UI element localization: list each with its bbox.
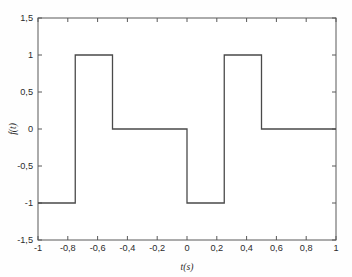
x-tick-label: -0,8 xyxy=(60,243,76,253)
x-tick-label: 0,4 xyxy=(240,243,253,253)
y-axis-tick-labels: -1,5-1-0,500,511,5 xyxy=(17,13,33,245)
x-tick-label: 1 xyxy=(333,243,338,253)
y-tick-label: 1 xyxy=(28,50,33,60)
y-tick-label: -1,5 xyxy=(17,235,33,245)
x-axis-title: t(s) xyxy=(181,261,194,273)
x-tick-label: 0 xyxy=(184,243,189,253)
y-tick-label: 0,5 xyxy=(20,87,33,97)
y-tick-label: 1,5 xyxy=(20,13,33,23)
x-tick-label: -0,6 xyxy=(90,243,106,253)
y-tick-label: -1 xyxy=(25,198,33,208)
y-axis-title: f(t) xyxy=(7,123,19,135)
x-tick-label: -1 xyxy=(34,243,42,253)
y-tick-label: -0,5 xyxy=(17,161,33,171)
y-tick-label: 0 xyxy=(28,124,33,134)
chart-plot: -1,5-1-0,500,511,5 -1-0,8-0,6-0,4-0,200,… xyxy=(0,0,352,277)
x-tick-label: -0,4 xyxy=(119,243,135,253)
x-tick-label: 0,2 xyxy=(210,243,223,253)
x-axis-tick-labels: -1-0,8-0,6-0,4-0,200,20,40,60,81 xyxy=(34,243,339,253)
x-tick-label: -0,2 xyxy=(149,243,165,253)
figure-container: -1,5-1-0,500,511,5 -1-0,8-0,6-0,4-0,200,… xyxy=(0,0,352,277)
x-tick-label: 0,6 xyxy=(270,243,283,253)
x-tick-label: 0,8 xyxy=(300,243,313,253)
